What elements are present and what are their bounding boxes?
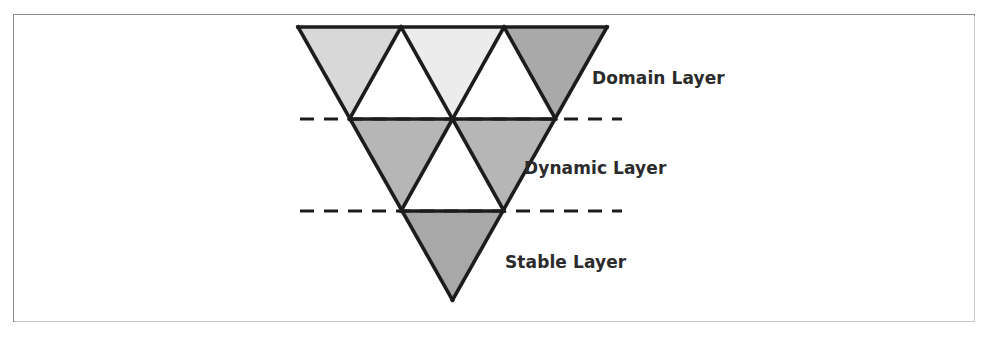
triangle-group-stable-layer	[401, 211, 504, 300]
stable-down-center	[401, 211, 504, 300]
domain-layer-label: Domain Layer	[592, 68, 725, 88]
stable-layer-label: Stable Layer	[505, 252, 626, 272]
figure-root: Domain Layer Dynamic Layer Stable Layer	[0, 0, 988, 337]
dynamic-layer-label: Dynamic Layer	[524, 158, 666, 178]
layered-triangle-diagram	[0, 0, 988, 337]
triangle-group-domain-layer	[298, 27, 607, 119]
